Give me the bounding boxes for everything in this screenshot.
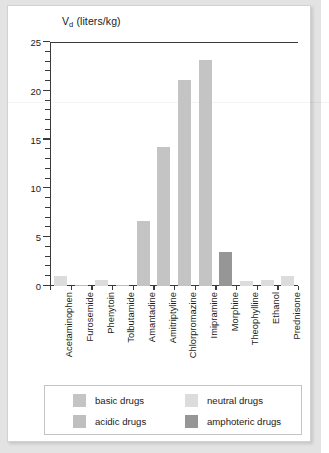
x-axis-tick-label: Tolbutamide	[126, 292, 136, 343]
legend-swatch-basic	[73, 394, 86, 407]
bar	[199, 60, 212, 286]
y-axis-minor-tick	[45, 275, 50, 276]
figure-panel: Vd (liters/kg) 0510152025 AcetaminophenF…	[7, 5, 311, 442]
x-axis-tick-label: Phenytoin	[106, 292, 116, 334]
legend-swatch-neutral	[185, 394, 198, 407]
y-axis-minor-tick	[45, 246, 50, 247]
legend-label: basic drugs	[95, 395, 144, 406]
bar	[261, 280, 274, 286]
bar	[137, 221, 150, 286]
y-axis-minor-tick	[45, 100, 50, 101]
bar	[281, 276, 294, 286]
bar	[95, 280, 108, 286]
bar	[54, 276, 67, 286]
y-axis-tick-label: 5	[36, 232, 41, 243]
x-axis-tick-label: Ethanol	[271, 292, 281, 324]
x-axis-tick-label: Acetaminophen	[64, 292, 74, 357]
x-axis-labels: AcetaminophenFurosemidePhenytoinTolbutam…	[50, 290, 298, 376]
y-axis-major-tick	[43, 138, 50, 139]
y-axis-title: Vd (liters/kg)	[62, 15, 121, 27]
y-axis-minor-tick	[45, 51, 50, 52]
y-axis-minor-tick	[45, 80, 50, 81]
y-axis-major-tick	[43, 187, 50, 188]
y-axis-tick-label: 15	[30, 134, 41, 145]
legend-label: amphoteric drugs	[207, 416, 281, 427]
y-axis-minor-tick	[45, 256, 50, 257]
legend-item: acidic drugs	[73, 415, 146, 428]
legend: basic drugsneutral drugsacidic drugsamph…	[44, 385, 302, 435]
plot-frame	[50, 42, 298, 286]
y-axis-minor-tick	[45, 178, 50, 179]
y-axis-minor-tick	[45, 168, 50, 169]
y-axis-minor-tick	[45, 70, 50, 71]
bar	[178, 80, 191, 286]
y-axis-tick-label: 10	[30, 183, 41, 194]
y-axis-minor-tick	[45, 226, 50, 227]
y-axis-title-subscript: d	[69, 20, 73, 29]
legend-item: amphoteric drugs	[185, 415, 281, 428]
y-axis-minor-tick	[45, 61, 50, 62]
y-axis-major-tick	[43, 90, 50, 91]
y-axis-major-tick	[43, 285, 50, 286]
legend-label: neutral drugs	[207, 395, 263, 406]
legend-item: basic drugs	[73, 394, 144, 407]
legend-label: acidic drugs	[95, 416, 146, 427]
legend-item: neutral drugs	[185, 394, 263, 407]
y-axis-minor-tick	[45, 197, 50, 198]
x-axis-tick	[298, 286, 299, 290]
bar	[157, 147, 170, 286]
bar	[240, 281, 253, 286]
y-axis-minor-tick	[45, 217, 50, 218]
y-axis-major-tick	[43, 41, 50, 42]
plot-area: 0510152025	[50, 42, 298, 286]
y-axis-minor-tick	[45, 265, 50, 266]
y-axis-minor-tick	[45, 119, 50, 120]
bar	[116, 285, 129, 286]
x-axis-tick-label: Chlorpromazine	[188, 292, 198, 358]
y-axis-tick-label: 20	[30, 85, 41, 96]
y-axis-minor-tick	[45, 207, 50, 208]
bar	[219, 252, 232, 286]
x-axis-tick-label: Theophylline	[250, 292, 260, 345]
x-axis-tick-label: Amantadine	[147, 292, 157, 342]
y-axis-tick-label: 25	[30, 37, 41, 48]
legend-swatch-amphoteric	[185, 415, 198, 428]
y-axis-minor-tick	[45, 129, 50, 130]
x-axis-tick-label: Imipramine	[209, 292, 219, 338]
y-axis-tick-label: 0	[36, 281, 41, 292]
x-axis-tick-label: Prednisone	[292, 292, 302, 340]
x-axis-tick-label: Furosemide	[85, 292, 95, 342]
x-axis-tick-label: Morphine	[230, 292, 240, 331]
y-axis-title-unit: (liters/kg)	[73, 15, 120, 27]
y-axis-minor-tick	[45, 148, 50, 149]
y-axis-minor-tick	[45, 158, 50, 159]
x-axis-tick-label: Amitriptyline	[168, 292, 178, 343]
legend-swatch-acidic	[73, 415, 86, 428]
y-axis-major-tick	[43, 236, 50, 237]
y-axis-minor-tick	[45, 109, 50, 110]
bar	[75, 285, 88, 286]
